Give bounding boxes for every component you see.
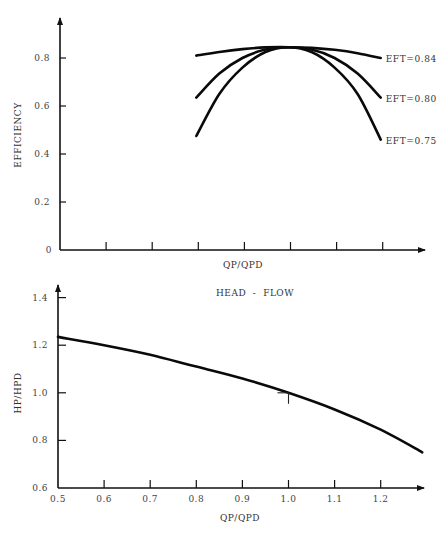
top-y-tick-label: 0.4 [34,149,50,159]
top-y-tick-label: 0 [46,245,52,255]
top-x-axis-title: QP/QPD [223,260,263,270]
efficiency-chart: 00.20.40.60.8 EFT=0.84EFT=0.80EFT=0.75 E… [13,18,437,270]
top-y-tick-label: 0.6 [34,101,50,111]
bottom-x-tick-label: 0.9 [234,494,250,504]
bottom-x-tick-label: 0.6 [96,494,112,504]
bottom-y-tick-label: 0.6 [32,483,48,493]
series-label: EFT=0.80 [386,94,437,104]
bottom-x-tick-label: 0.8 [188,494,204,504]
efficiency-curve-075 [196,47,380,139]
bottom-y-tick-label: 1.4 [32,293,48,303]
series-label: EFT=0.75 [386,136,437,146]
bottom-x-tick-label: 0.5 [50,494,66,504]
bottom-x-tick-label: 0.7 [142,494,158,504]
efficiency-curve-080 [196,47,380,97]
top-y-tick-label: 0.8 [34,53,50,63]
bottom-x-tick-label: 1.1 [327,494,343,504]
bottom-y-tick-label: 0.8 [32,435,48,445]
top-y-tick-label: 0.2 [34,197,50,207]
bottom-x-tick-label: 1.0 [281,494,297,504]
bottom-y-tick-label: 1.0 [32,388,48,398]
bottom-y-axis-title: HP/HPD [13,372,23,413]
top-y-axis-title: EFFICIENCY [13,102,23,168]
bottom-y-tick-label: 1.2 [32,340,48,350]
head-flow-chart: 0.60.81.01.21.4 0.50.60.70.80.91.01.11.2… [13,285,424,523]
efficiency-curve-084 [196,47,380,58]
series-label: EFT=0.84 [386,54,437,64]
bottom-chart-title: HEAD - FLOW [216,288,294,298]
bottom-x-tick-label: 1.2 [373,494,389,504]
head-flow-curve [58,337,422,452]
figure: 00.20.40.60.8 EFT=0.84EFT=0.80EFT=0.75 E… [0,0,448,535]
bottom-x-axis-title: QP/QPD [220,513,260,523]
